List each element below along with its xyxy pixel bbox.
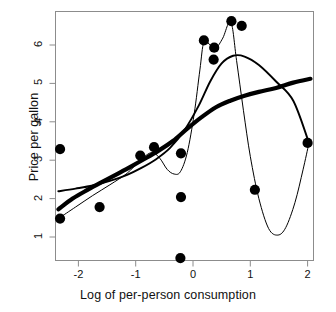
y-tick-label: 4	[32, 114, 44, 128]
data-point	[135, 150, 145, 160]
y-tick-label: 5	[32, 75, 44, 89]
y-axis-label: Price per gallon	[27, 17, 41, 257]
y-tick-label: 6	[32, 37, 44, 51]
data-point	[209, 54, 219, 64]
x-tick-label: -2	[66, 268, 90, 280]
curve-thick-smooth-curve	[58, 79, 310, 210]
y-tick-label: 1	[32, 229, 44, 243]
x-tick-label: -1	[124, 268, 148, 280]
x-tick-label: 2	[296, 268, 320, 280]
plot-border	[56, 12, 314, 261]
data-point	[55, 144, 65, 154]
data-points	[55, 16, 313, 263]
data-point	[176, 192, 186, 202]
scatter-plot-figure: Log of per-person consumption Price per …	[0, 0, 336, 312]
data-point	[175, 253, 185, 263]
data-point	[209, 43, 219, 53]
plot-canvas	[0, 0, 336, 312]
data-point	[95, 202, 105, 212]
y-tick-label: 3	[32, 152, 44, 166]
data-point	[226, 16, 236, 26]
x-axis-label: Log of per-person consumption	[0, 288, 336, 302]
data-point	[149, 142, 159, 152]
x-tick-label: 0	[181, 268, 205, 280]
y-tick-label: 2	[32, 191, 44, 205]
data-point	[55, 213, 65, 223]
plot-frame	[56, 12, 314, 261]
data-point	[303, 138, 313, 148]
data-point	[199, 35, 209, 45]
data-point	[237, 21, 247, 31]
fitted-curves	[58, 21, 310, 235]
x-tick-label: 1	[238, 268, 262, 280]
curve-medium-smooth-curve	[58, 55, 308, 191]
data-point	[176, 148, 186, 158]
y-axis-ticks	[50, 45, 56, 237]
x-axis-ticks	[78, 261, 307, 267]
data-point	[250, 185, 260, 195]
